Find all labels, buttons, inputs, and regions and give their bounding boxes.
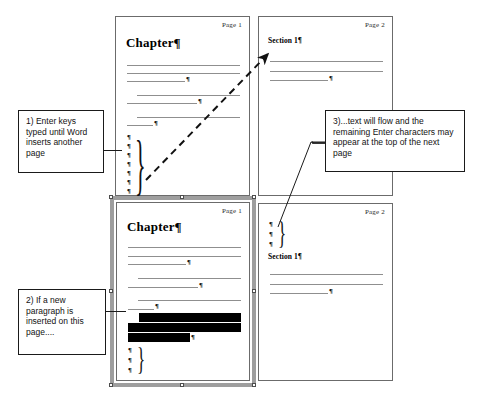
highlighted-text-line	[128, 333, 190, 342]
text-line	[270, 80, 328, 81]
pilcrow-icon: ¶	[191, 334, 195, 341]
pilcrow-icon: ¶	[269, 231, 273, 238]
page-heading: Section 1¶	[268, 36, 302, 45]
selection-handle-bottom-center[interactable]	[180, 383, 184, 387]
highlighted-text-line	[139, 313, 241, 322]
page-heading: Section 1¶	[268, 252, 302, 261]
brace-icon: }	[278, 219, 286, 250]
selection-handle-top-right[interactable]	[252, 195, 256, 199]
text-line	[138, 300, 241, 301]
text-line	[128, 287, 198, 288]
text-line	[138, 278, 241, 279]
text-line	[137, 95, 240, 96]
page-label: Page 2	[365, 208, 385, 216]
page-heading: Chapter¶	[127, 219, 182, 235]
text-line	[127, 103, 197, 104]
selection-handle-top-center[interactable]	[180, 195, 184, 199]
pilcrow-icon: ¶	[128, 367, 132, 374]
text-line	[127, 65, 240, 66]
selection-handle-middle-left[interactable]	[109, 289, 113, 293]
page-label: Page 1	[222, 207, 242, 215]
pilcrow-icon: ¶	[329, 75, 333, 82]
selection-handle-bottom-right[interactable]	[252, 383, 256, 387]
text-line	[127, 73, 240, 74]
pilcrow-icon: ¶	[127, 143, 131, 150]
text-line	[128, 309, 154, 310]
document-page-bottom-right[interactable]: Page 2 ¶ ¶ ¶ } Section 1¶ ¶	[258, 203, 393, 381]
callout-1-connector	[104, 150, 122, 151]
text-line	[270, 293, 328, 294]
text-line	[127, 81, 185, 82]
pilcrow-icon: ¶	[127, 188, 131, 195]
page-label: Page 2	[365, 21, 385, 29]
pilcrow-icon: ¶	[269, 221, 273, 228]
text-line	[270, 284, 383, 285]
pilcrow-icon: ¶	[127, 134, 131, 141]
pilcrow-icon: ¶	[186, 76, 190, 83]
pilcrow-icon: ¶	[154, 120, 158, 127]
document-page-bottom-left[interactable]: Page 1 Chapter¶ ¶ ¶ ¶ ¶ ¶ ¶ ¶ }	[116, 202, 250, 381]
callout-3[interactable]: 3)...text will flow and the remaining En…	[325, 110, 465, 172]
page-label: Page 1	[222, 21, 242, 29]
pilcrow-icon: ¶	[199, 282, 203, 289]
callout-1[interactable]: 1) Enter keys typed until Word inserts a…	[18, 110, 104, 173]
pilcrow-icon: ¶	[329, 288, 333, 295]
text-line	[270, 61, 383, 62]
pilcrow-icon: ¶	[187, 259, 191, 266]
brace-icon: }	[137, 345, 145, 376]
pilcrow-icon: ¶	[127, 161, 131, 168]
brace-icon: }	[135, 131, 146, 199]
callout-2-connector	[106, 311, 126, 312]
text-line	[128, 264, 186, 265]
highlighted-text-line	[128, 323, 241, 332]
pilcrow-icon: ¶	[127, 170, 131, 177]
page-heading: Chapter¶	[126, 35, 181, 51]
text-line	[270, 71, 383, 72]
text-line	[128, 247, 241, 248]
pilcrow-icon: ¶	[128, 347, 132, 354]
pilcrow-icon: ¶	[127, 152, 131, 159]
pilcrow-icon: ¶	[127, 179, 131, 186]
pilcrow-icon: ¶	[198, 98, 202, 105]
pilcrow-icon: ¶	[155, 303, 159, 310]
pilcrow-icon: ¶	[128, 357, 132, 364]
diagram-canvas: Page 1 Chapter¶ ¶ ¶ ¶ ¶ ¶ ¶ ¶ ¶ ¶ ¶ } Pa…	[0, 0, 478, 398]
selection-handle-top-left[interactable]	[109, 195, 113, 199]
selection-handle-bottom-left[interactable]	[109, 383, 113, 387]
document-page-top-left[interactable]: Page 1 Chapter¶ ¶ ¶ ¶ ¶ ¶ ¶ ¶ ¶ ¶ ¶ }	[115, 16, 250, 196]
callout-2[interactable]: 2) If a new paragraph is inserted on thi…	[18, 289, 106, 355]
pilcrow-icon: ¶	[269, 241, 273, 248]
selection-handle-middle-right[interactable]	[252, 289, 256, 293]
text-line	[270, 274, 383, 275]
text-line	[128, 256, 241, 257]
text-line	[137, 117, 240, 118]
